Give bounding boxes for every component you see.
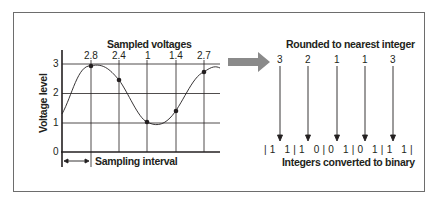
rounded-value-4: 1 (362, 55, 368, 65)
y-tick-2: 2 (53, 88, 59, 98)
sample-label-1: 2.8 (84, 51, 98, 61)
y-axis-label: Voltage level (38, 73, 48, 133)
y-tick-0: 0 (53, 147, 59, 157)
voltage-curve (62, 65, 220, 125)
rounded-value-5: 3 (390, 55, 396, 65)
rounded-value-2: 2 (305, 55, 311, 65)
binary-row: | 1 1 | 1 0 | 0 1 | 0 1 | 1 1 | (264, 145, 413, 155)
sample-label-5: 2.7 (197, 51, 211, 61)
binary-caption: Integers converted to binary (282, 157, 415, 167)
y-tick-3: 3 (53, 59, 59, 69)
sample-points (89, 64, 207, 125)
sample-label-3: 1 (145, 51, 151, 61)
sampling-diagram-graphics (0, 0, 434, 204)
rounded-value-1: 3 (277, 55, 283, 65)
sample-label-2: 2.4 (112, 51, 126, 61)
y-tick-1: 1 (53, 118, 59, 128)
conversion-arrows (278, 66, 396, 141)
right-arrow-icon (228, 52, 270, 72)
rounded-title: Rounded to nearest integer (286, 39, 415, 49)
chart-title: Sampled voltages (107, 39, 191, 49)
sampling-interval-arrow-icon (64, 159, 89, 163)
sampling-interval-label: Sampling interval (95, 156, 177, 166)
chart-gridlines (62, 60, 220, 152)
sample-label-4: 1.4 (169, 51, 183, 61)
rounded-value-3: 1 (334, 55, 340, 65)
